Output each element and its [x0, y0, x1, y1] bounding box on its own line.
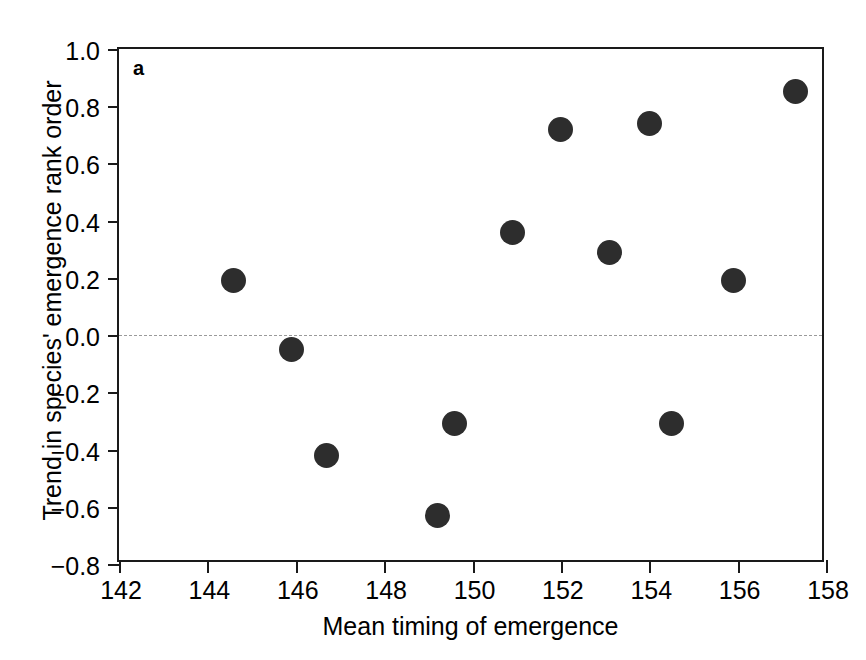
x-axis-tick: 146 [296, 560, 298, 573]
y-axis-tick: −0.8 [108, 564, 119, 566]
data-point [548, 117, 573, 142]
x-axis-tick: 142 [119, 560, 121, 573]
data-point [637, 111, 662, 136]
y-axis-tick: −0.2 [108, 392, 119, 394]
x-axis-tick-label: 156 [719, 576, 761, 605]
plot-area: a 1.00.80.60.40.20.0−0.2−0.4−0.6−0.8 142… [117, 47, 824, 562]
zero-reference-line [119, 335, 822, 336]
y-axis-title: Trend in species' emergence rank order [38, 41, 67, 561]
y-axis-tick: −0.6 [108, 507, 119, 509]
scatter-plot-figure: a 1.00.80.60.40.20.0−0.2−0.4−0.6−0.8 142… [0, 0, 866, 660]
y-axis-tick-label: 0.4 [65, 208, 100, 237]
y-axis-tick: 0.4 [108, 221, 119, 223]
data-point [425, 503, 450, 528]
data-point [314, 443, 339, 468]
y-axis-tick: 0.6 [108, 163, 119, 165]
y-axis-tick-label: 0.2 [65, 265, 100, 294]
x-axis-tick-label: 144 [189, 576, 231, 605]
y-axis-tick-label: 0.6 [65, 151, 100, 180]
y-axis-tick-label: 0.0 [65, 323, 100, 352]
y-axis-tick: 0.8 [108, 106, 119, 108]
x-axis-tick: 144 [207, 560, 209, 573]
panel-label-a: a [133, 57, 144, 80]
x-axis-tick-label: 152 [542, 576, 584, 605]
data-point [721, 268, 746, 293]
data-point [783, 79, 808, 104]
x-axis-tick: 158 [826, 560, 828, 573]
y-axis-tick-label: 1.0 [65, 37, 100, 66]
y-axis-tick: 0.2 [108, 278, 119, 280]
x-axis-title: Mean timing of emergence [117, 612, 824, 641]
y-axis-tick: 1.0 [108, 49, 119, 51]
x-axis-tick: 156 [738, 560, 740, 573]
x-axis-tick: 150 [473, 560, 475, 573]
x-axis-tick: 154 [649, 560, 651, 573]
data-point [597, 240, 622, 265]
x-axis-tick: 148 [384, 560, 386, 573]
data-point [659, 411, 684, 436]
x-axis-tick-label: 148 [365, 576, 407, 605]
x-axis-tick-label: 154 [630, 576, 672, 605]
data-point [500, 220, 525, 245]
x-axis-tick-label: 158 [807, 576, 849, 605]
x-axis-tick-label: 150 [454, 576, 496, 605]
x-axis-tick-label: 146 [277, 576, 319, 605]
y-axis-tick: 0.0 [108, 335, 119, 337]
data-point [279, 337, 304, 362]
y-axis-tick: −0.4 [108, 450, 119, 452]
y-axis-tick-label: 0.8 [65, 94, 100, 123]
x-axis-tick-label: 142 [100, 576, 142, 605]
x-axis-tick: 152 [561, 560, 563, 573]
data-point [442, 411, 467, 436]
data-point [221, 268, 246, 293]
